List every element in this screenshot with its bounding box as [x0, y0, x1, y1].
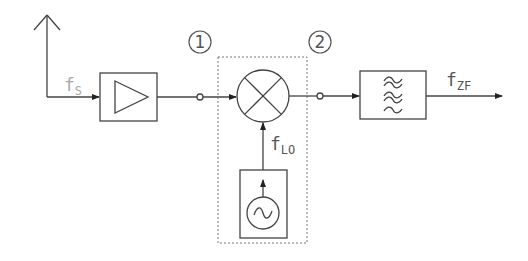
node-1-label: 1: [195, 32, 206, 52]
node-1-point: [197, 94, 203, 100]
node-1-marker: 1: [189, 31, 211, 53]
signal-in-label-sub: S: [75, 84, 82, 98]
mixer-block: [237, 70, 289, 122]
signal-in-label-main: f: [64, 74, 75, 95]
lo-label-sub: LO: [281, 143, 295, 157]
oscillator-block: [240, 170, 287, 238]
receiver-block-diagram: fS 1 2 fLO: [0, 0, 528, 261]
antenna-icon: [34, 15, 60, 97]
lo-label: fLO: [270, 133, 295, 157]
if-out-label-main: f: [446, 69, 457, 90]
node-2-point: [317, 93, 323, 99]
bandpass-filter-block: [360, 71, 426, 119]
signal-in-label: fS: [64, 74, 82, 98]
node-2-label: 2: [315, 32, 326, 52]
lo-label-main: f: [270, 133, 281, 154]
node-2-marker: 2: [309, 31, 331, 53]
if-out-label: fZF: [446, 69, 471, 93]
amplifier-block: [100, 73, 157, 121]
if-out-label-sub: ZF: [457, 79, 471, 93]
